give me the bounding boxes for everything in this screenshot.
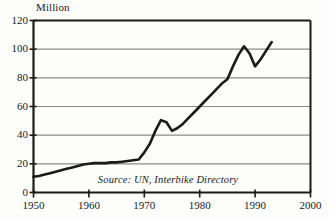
y-tick-label: 60 — [0, 100, 28, 112]
y-tick-label: 120 — [0, 14, 28, 26]
y-tick-label: 40 — [0, 128, 28, 140]
x-tick-label: 1980 — [180, 199, 220, 211]
x-tick-label: 1990 — [235, 199, 275, 211]
chart-plot-area — [0, 0, 329, 219]
x-tick-label: 2000 — [291, 199, 329, 211]
y-tick-label: 80 — [0, 71, 28, 83]
x-tick-label: 1970 — [124, 199, 164, 211]
y-tick-label: 100 — [0, 42, 28, 54]
y-tick-label: 0 — [0, 186, 28, 198]
gridlines — [34, 49, 311, 164]
source-annotation: Source: UN, Interbike Directory — [98, 174, 238, 185]
x-tick-label: 1960 — [69, 199, 109, 211]
y-tick-label: 20 — [0, 157, 28, 169]
x-tick-label: 1950 — [14, 199, 54, 211]
chart-container: Million 020406080100120 1950196019701980… — [0, 0, 329, 219]
data-series-lines — [34, 42, 272, 177]
